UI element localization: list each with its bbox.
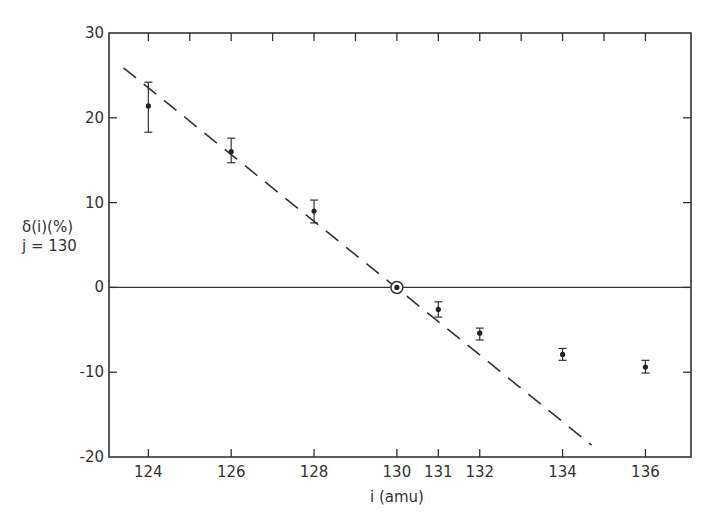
data-point	[229, 149, 234, 154]
fit-line	[123, 68, 591, 445]
data-point	[311, 208, 316, 213]
plot-frame	[109, 33, 691, 457]
x-axis-label: i (amu)	[370, 488, 424, 506]
chart-canvas: 3020100-10-20 124126128130131132134136 i…	[0, 0, 717, 528]
x-tick-label: 131	[424, 463, 453, 481]
y-tick-label: 10	[85, 194, 104, 212]
data-point	[146, 103, 151, 108]
data-points	[144, 82, 649, 373]
y-tick-label: 20	[85, 109, 104, 127]
x-tick-labels: 124126128130131132134136	[134, 463, 660, 481]
x-tick-label: 128	[300, 463, 329, 481]
reference-point-dot	[394, 285, 399, 290]
x-tick-label: 134	[548, 463, 577, 481]
x-tick-label: 132	[465, 463, 494, 481]
data-point	[436, 307, 441, 312]
dashed-fit-line	[123, 68, 591, 445]
y-tick-label: 30	[85, 24, 104, 42]
x-tick-label: 124	[134, 463, 163, 481]
x-tick-label: 126	[217, 463, 246, 481]
x-tick-label: 136	[631, 463, 660, 481]
y-tick-label: -10	[80, 363, 105, 381]
y-axis-label-line1: δ(i)(%)	[22, 218, 77, 237]
y-tick-label: 0	[94, 278, 104, 296]
y-tick-label: -20	[80, 448, 105, 466]
x-tick-label: 130	[383, 463, 412, 481]
data-point	[643, 365, 648, 370]
data-point	[560, 352, 565, 357]
data-point	[477, 331, 482, 336]
plot-border	[109, 33, 691, 457]
y-axis-label-line2: j = 130	[22, 237, 77, 256]
axis-ticks	[109, 33, 691, 457]
y-axis-label: δ(i)(%) j = 130	[22, 218, 77, 256]
y-tick-labels: 3020100-10-20	[80, 24, 105, 466]
